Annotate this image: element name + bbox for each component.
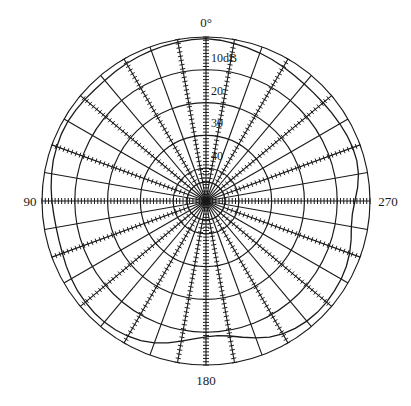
polar-plot-figure: 0° 90 180 270 10dB 20 30 40 bbox=[0, 0, 411, 406]
polar-chart-canvas bbox=[0, 0, 411, 406]
